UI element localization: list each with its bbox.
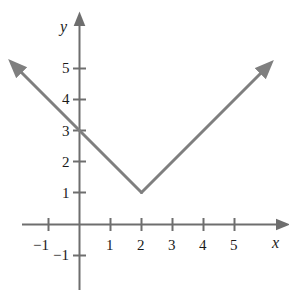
y-axis-label: y bbox=[60, 19, 67, 35]
x-axis-label: x bbox=[272, 235, 279, 251]
y-tick-label-5: 5 bbox=[62, 61, 70, 76]
graph-figure: −1 1 2 3 4 5 5 4 3 2 1 −1 y x bbox=[0, 0, 289, 297]
absolute-value-curve bbox=[20, 71, 262, 193]
y-tick-label-2: 2 bbox=[62, 155, 70, 170]
x-tick-label-neg1: −1 bbox=[33, 238, 49, 253]
y-tick-label-4: 4 bbox=[62, 92, 70, 107]
x-tick-label-5: 5 bbox=[230, 238, 238, 253]
x-tick-label-3: 3 bbox=[168, 238, 176, 253]
x-tick-label-2: 2 bbox=[137, 238, 145, 253]
y-tick-label-3: 3 bbox=[62, 124, 70, 139]
x-axis bbox=[22, 218, 278, 231]
y-tick-label-1: 1 bbox=[62, 186, 70, 201]
x-tick-label-1: 1 bbox=[106, 238, 114, 253]
x-tick-label-4: 4 bbox=[199, 238, 207, 253]
y-axis bbox=[73, 24, 86, 290]
y-tick-label-neg1: −1 bbox=[53, 248, 69, 263]
